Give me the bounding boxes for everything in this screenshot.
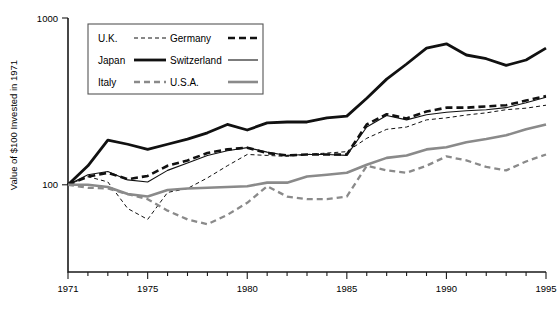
legend-label-italy: Italy [98,77,116,88]
y-axis-title: Value of $100 Invested in 1971 [8,60,19,190]
x-tick-label-1995: 1995 [535,283,556,294]
y-tick-label-1000: 1000 [37,13,58,24]
x-tick-label-1971: 1971 [57,283,78,294]
legend-label-japan: Japan [98,55,125,66]
line-chart: 1000100197119751980198519901995 U.K.Germ… [0,0,557,309]
chart-axis-labels: Value of $100 Invested in 1971 [8,60,19,190]
y-tick-label-100: 100 [42,179,58,190]
legend-label-uk: U.K. [98,33,117,44]
legend-label-germany: Germany [170,33,211,44]
series-line-italy [68,154,546,224]
chart-canvas: 1000100197119751980198519901995 U.K.Germ… [0,0,557,309]
legend-label-usa: U.S.A. [170,77,199,88]
x-tick-label-1985: 1985 [336,283,357,294]
x-tick-label-1980: 1980 [237,283,258,294]
legend-label-switzerland: Switzerland [170,55,222,66]
x-tick-label-1975: 1975 [137,283,158,294]
x-tick-label-1990: 1990 [436,283,457,294]
series-line-usa [68,124,546,196]
chart-legend: U.K.GermanyJapanSwitzerlandItalyU.S.A. [88,24,263,94]
